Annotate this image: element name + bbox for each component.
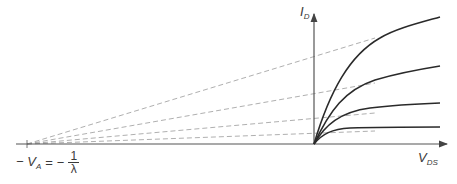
curve-1 (314, 17, 440, 144)
y-axis-label: ID (300, 4, 309, 21)
x-axis-label: VDS (418, 150, 438, 167)
fraction: 1 λ (68, 150, 79, 175)
curve-4 (314, 127, 440, 144)
characteristic-curves (314, 17, 440, 144)
curve-3 (314, 103, 440, 144)
intercept-equation: − VA = − 1 λ (16, 150, 79, 175)
